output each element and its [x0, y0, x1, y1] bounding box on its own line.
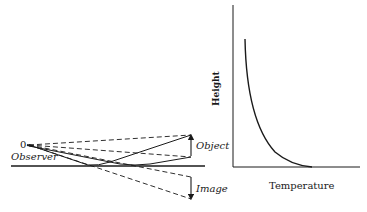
- height-temperature-chart: [233, 5, 360, 167]
- observer-eye-icon: [27, 145, 33, 146]
- observer-marker: 0: [20, 140, 26, 150]
- observer-label: Observer: [11, 152, 58, 162]
- y-axis-label: Height: [212, 71, 221, 106]
- mirage-diagram: [11, 135, 205, 199]
- image-label: Image: [196, 184, 228, 194]
- x-axis-label: Temperature: [269, 181, 335, 191]
- object-label: Object: [196, 141, 229, 151]
- height-temperature-curve: [245, 39, 312, 167]
